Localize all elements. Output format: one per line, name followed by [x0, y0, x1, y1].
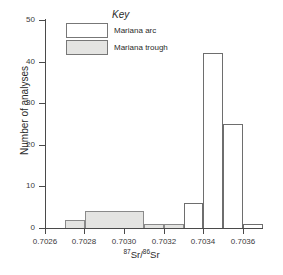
x-tick-label-2: 0.7030	[104, 237, 144, 246]
x-tick-3	[164, 229, 165, 234]
legend-swatch-mariana-arc	[66, 23, 108, 38]
y-tick-30	[39, 103, 45, 104]
x-axis-title-sr: Sr	[150, 249, 160, 260]
bar-trough-1	[85, 211, 144, 228]
x-axis-line	[45, 228, 263, 229]
legend-swatch-mariana-trough	[66, 40, 108, 55]
y-axis-title: Number of analyses	[19, 31, 30, 191]
bar-trough-3	[164, 224, 184, 228]
x-tick-2	[124, 229, 125, 234]
legend-label-mariana-trough: Mariana trough	[114, 43, 168, 52]
legend-item-mariana-trough: Mariana trough	[66, 40, 186, 55]
x-tick-4	[203, 229, 204, 234]
y-tick-40	[39, 62, 45, 63]
bar-trough-2	[144, 224, 164, 228]
x-tick-label-0: 0.7026	[25, 237, 65, 246]
bar-arc-0	[184, 203, 204, 228]
histogram-figure: 0 10 20 30 40 50 0.7026 0.7028 0.7030 0.…	[0, 0, 283, 275]
bar-arc-3	[243, 224, 263, 228]
x-axis-title-sup-87: 87	[123, 248, 130, 255]
legend-label-mariana-arc: Mariana arc	[114, 26, 156, 35]
bar-trough-0	[65, 220, 85, 228]
x-tick-label-5: 0.7036	[223, 237, 263, 246]
legend-item-mariana-arc: Mariana arc	[66, 23, 186, 38]
bar-arc-2	[223, 124, 243, 228]
x-tick-0	[45, 229, 46, 234]
x-tick-label-1: 0.7028	[64, 237, 104, 246]
x-tick-label-4: 0.7034	[183, 237, 223, 246]
x-axis-title-sr-slash: Sr/	[131, 249, 143, 260]
y-tick-50	[39, 20, 45, 21]
y-tick-label-0: 0	[11, 224, 35, 232]
y-axis-line	[45, 19, 46, 229]
legend-title: Key	[112, 9, 186, 20]
y-tick-20	[39, 145, 45, 146]
y-tick-10	[39, 186, 45, 187]
bar-arc-1	[203, 53, 223, 228]
x-axis-title-sup-86: 86	[143, 248, 150, 255]
y-tick-label-50: 50	[11, 16, 35, 24]
legend: Key Mariana arc Mariana trough	[66, 9, 186, 57]
x-axis-title: 87Sr/86Sr	[0, 248, 283, 260]
x-tick-label-3: 0.7032	[144, 237, 184, 246]
x-tick-5	[243, 229, 244, 234]
x-tick-1	[84, 229, 85, 234]
